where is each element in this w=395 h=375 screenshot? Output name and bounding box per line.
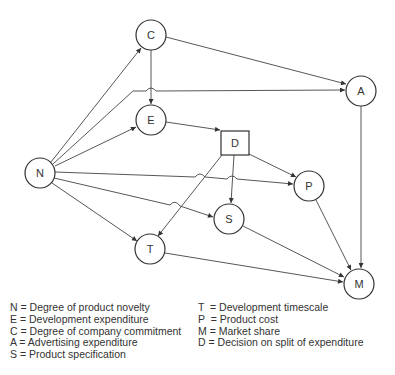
legend-item: D = Decision on split of expenditure [198,337,363,349]
edge-e-d [166,122,220,130]
node-n: N [25,158,55,188]
svg-text:N: N [36,167,44,179]
node-a: A [346,76,376,106]
edge-d-p [249,154,296,177]
svg-text:C: C [147,29,155,41]
node-m: M [344,269,374,299]
legend-right: T = Development timescale P = Product co… [198,302,363,349]
svg-text:A: A [357,85,365,97]
edge-n-s [54,178,213,217]
legend-item: S = Product specification [10,349,181,361]
node-p: P [294,171,324,201]
edges [51,37,361,282]
svg-text:M: M [354,278,363,290]
edge-n-a [53,88,345,164]
legend-item: P = Product cost [198,314,363,326]
svg-text:S: S [225,213,232,225]
edge-n-c [51,48,141,162]
svg-text:E: E [147,114,154,126]
legend-left: N = Degree of product novelty E = Develo… [10,302,181,361]
legend-item: E = Development expenditure [10,314,181,326]
edge-s-m [243,226,344,277]
edge-n-p [55,172,293,184]
node-s: S [214,204,244,234]
node-d: D [221,131,249,155]
node-t: T [135,234,165,264]
svg-text:D: D [231,137,239,149]
node-c: C [136,20,166,50]
edge-n-e [55,127,136,166]
edge-c-a [166,37,346,84]
edge-d-s [231,155,234,203]
svg-text:P: P [305,180,312,192]
node-e: E [136,105,166,135]
edge-t-m [165,253,343,282]
edge-p-m [316,200,351,270]
edge-n-t [52,183,137,241]
svg-text:T: T [147,243,154,255]
edge-d-t [158,155,222,236]
